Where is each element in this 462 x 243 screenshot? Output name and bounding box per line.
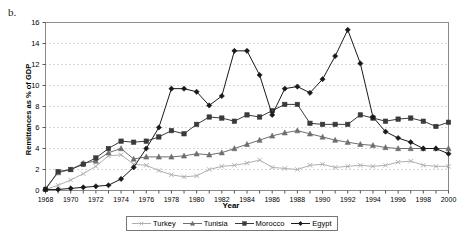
data-point bbox=[106, 146, 110, 150]
data-point bbox=[421, 119, 425, 123]
data-point bbox=[283, 102, 287, 106]
data-point bbox=[308, 121, 312, 125]
legend-label: Egypt bbox=[312, 219, 331, 228]
legend-marker-triangle-icon bbox=[183, 219, 202, 228]
data-point bbox=[144, 139, 148, 143]
legend-item-egypt[interactable]: Egypt bbox=[291, 219, 331, 228]
data-point bbox=[94, 156, 98, 160]
data-point bbox=[320, 122, 324, 126]
legend-label: Tunisia bbox=[204, 219, 228, 228]
data-point bbox=[232, 119, 236, 123]
legend-label: Turkey bbox=[153, 219, 176, 228]
chart-figure: b. Remittances as % of GDP Year 02468101… bbox=[0, 0, 462, 243]
data-point bbox=[295, 102, 299, 106]
data-point bbox=[81, 162, 85, 166]
data-point bbox=[346, 122, 350, 126]
data-point bbox=[409, 116, 413, 120]
legend-item-morocco[interactable]: Morocco bbox=[235, 219, 285, 228]
plot-area bbox=[0, 0, 462, 243]
data-point bbox=[434, 124, 438, 128]
data-point bbox=[56, 169, 60, 173]
data-point bbox=[245, 113, 249, 117]
legend-item-turkey[interactable]: Turkey bbox=[132, 219, 176, 228]
data-point bbox=[383, 119, 387, 123]
data-point bbox=[396, 117, 400, 121]
legend-marker-square-icon bbox=[235, 219, 254, 228]
data-point bbox=[157, 135, 161, 139]
chart-legend: TurkeyTunisiaMoroccoEgypt bbox=[126, 216, 338, 231]
data-point bbox=[169, 128, 173, 132]
legend-marker-diamond-icon bbox=[291, 219, 310, 228]
legend-item-tunisia[interactable]: Tunisia bbox=[183, 219, 228, 228]
data-point bbox=[220, 116, 224, 120]
data-point bbox=[68, 167, 72, 171]
data-point bbox=[182, 132, 186, 136]
data-point bbox=[131, 140, 135, 144]
data-point bbox=[257, 115, 261, 119]
data-point bbox=[446, 120, 450, 124]
data-point bbox=[194, 122, 198, 126]
data-point bbox=[207, 115, 211, 119]
legend-marker-x-icon bbox=[132, 219, 151, 228]
data-point bbox=[119, 139, 123, 143]
data-point bbox=[358, 113, 362, 117]
figure-caption bbox=[0, 236, 462, 243]
data-point bbox=[333, 122, 337, 126]
legend-label: Morocco bbox=[256, 219, 285, 228]
